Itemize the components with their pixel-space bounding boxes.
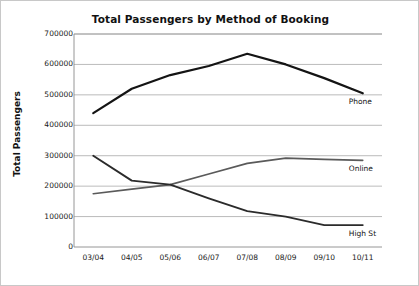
series-line-phone <box>93 54 363 113</box>
plot-area <box>1 1 419 286</box>
series-label-online: Online <box>349 164 373 173</box>
series-label-high-st: High St <box>349 229 376 238</box>
series-label-phone: Phone <box>349 97 372 106</box>
series-line-online <box>93 158 363 194</box>
gridlines <box>74 34 382 217</box>
chart-container: Total Passengers by Method of Booking To… <box>0 0 419 286</box>
series-lines <box>93 54 363 225</box>
axis-lines <box>74 34 382 247</box>
series-line-high-st <box>93 156 363 225</box>
